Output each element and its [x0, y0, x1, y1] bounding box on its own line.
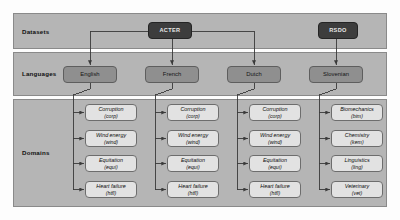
- domain-abbr: (kem): [350, 139, 363, 145]
- domain-node-slovenian-3[interactable]: Veterinary(vet): [331, 181, 383, 198]
- language-node-french[interactable]: French: [145, 66, 199, 83]
- domain-abbr: (equi): [104, 164, 117, 170]
- domain-abbr: (corp): [104, 113, 118, 119]
- dataset-node-rsdo[interactable]: RSDO: [318, 22, 358, 39]
- domain-node-slovenian-0[interactable]: Biomechanics(bim): [331, 104, 383, 121]
- language-node-slovenian[interactable]: Slovenian: [309, 66, 363, 83]
- row-label-languages: Languages: [22, 70, 56, 77]
- domain-abbr: (htfl): [270, 190, 280, 196]
- domain-node-dutch-2[interactable]: Equitation(equi): [249, 155, 301, 172]
- domain-abbr: (ling): [351, 164, 363, 170]
- domain-abbr: (wind): [268, 139, 282, 145]
- domain-abbr: (vet): [352, 190, 362, 196]
- domain-node-english-3[interactable]: Heart failure(htfl): [85, 181, 137, 198]
- domain-abbr: (bim): [351, 113, 363, 119]
- language-node-english[interactable]: English: [63, 66, 117, 83]
- domain-node-english-2[interactable]: Equitation(equi): [85, 155, 137, 172]
- domain-node-dutch-0[interactable]: Corruption(corp): [249, 104, 301, 121]
- domain-abbr: (wind): [186, 139, 200, 145]
- language-node-dutch[interactable]: Dutch: [227, 66, 281, 83]
- domain-node-dutch-1[interactable]: Wind energy(wind): [249, 130, 301, 147]
- domain-node-slovenian-2[interactable]: Linguistics(ling): [331, 155, 383, 172]
- figure-root: Datasets Languages Domains ACTER RSDO En…: [0, 0, 400, 220]
- domain-abbr: (htfl): [106, 190, 116, 196]
- domain-node-french-0[interactable]: Corruption(corp): [167, 104, 219, 121]
- domain-node-french-2[interactable]: Equitation(equi): [167, 155, 219, 172]
- domain-abbr: (equi): [268, 164, 281, 170]
- domain-node-french-1[interactable]: Wind energy(wind): [167, 130, 219, 147]
- domain-node-dutch-3[interactable]: Heart failure(htfl): [249, 181, 301, 198]
- domain-abbr: (htfl): [188, 190, 198, 196]
- domain-abbr: (corp): [186, 113, 200, 119]
- domain-abbr: (wind): [104, 139, 118, 145]
- domain-abbr: (equi): [186, 164, 199, 170]
- row-label-domains: Domains: [22, 149, 50, 156]
- domain-node-slovenian-1[interactable]: Chemistry(kem): [331, 130, 383, 147]
- dataset-node-acter[interactable]: ACTER: [148, 22, 192, 39]
- domain-node-english-0[interactable]: Corruption(corp): [85, 104, 137, 121]
- domain-node-french-3[interactable]: Heart failure(htfl): [167, 181, 219, 198]
- domain-node-english-1[interactable]: Wind energy(wind): [85, 130, 137, 147]
- row-label-datasets: Datasets: [22, 28, 49, 35]
- domain-abbr: (corp): [268, 113, 282, 119]
